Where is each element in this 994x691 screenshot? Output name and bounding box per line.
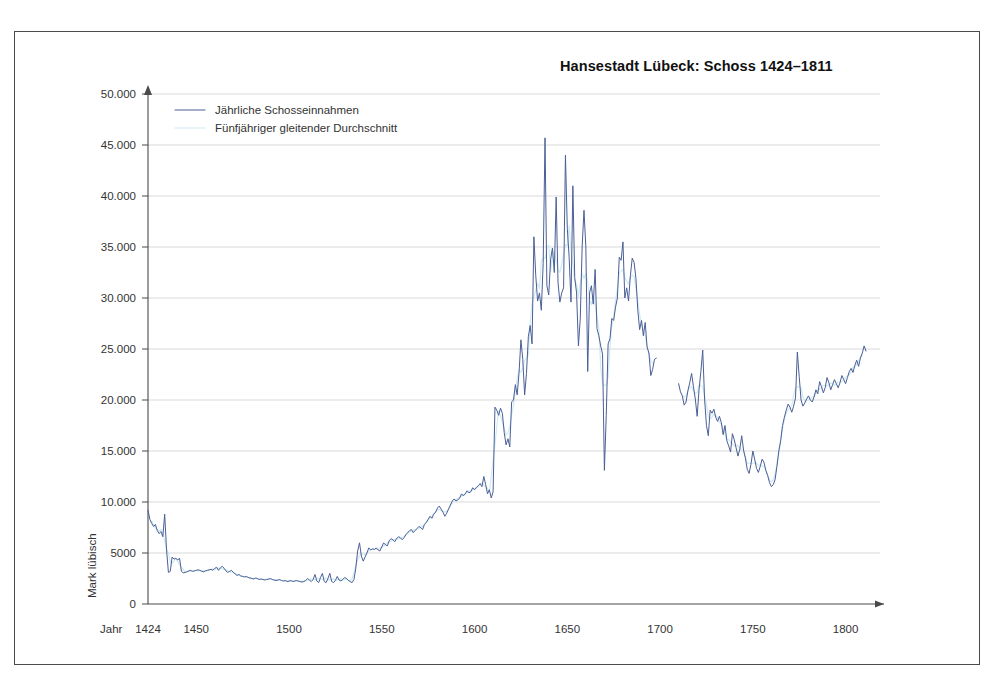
chart-svg: 0500010.00015.00020.00025.00030.00035.00… [0, 0, 994, 691]
y-tick-label: 15.000 [101, 445, 136, 457]
x-tick-label: 1500 [276, 623, 302, 635]
y-tick-label: 5000 [110, 547, 136, 559]
legend-label-annual: Jährliche Schosseinnahmen [215, 104, 359, 116]
legend-label-moving-average: Fünfjähriger gleitender Durchschnitt [215, 122, 398, 134]
x-axis-name: Jahr [100, 623, 123, 635]
x-tick-label: 1700 [647, 623, 673, 635]
x-tick-labels-group: 142414501500155016001650170017501800 [135, 623, 858, 635]
series-line-moving-average [152, 226, 863, 582]
y-tick-label: 40.000 [101, 190, 136, 202]
legend: Jährliche Schosseinnahmen Fünfjähriger g… [175, 104, 398, 134]
series-line-annual [148, 138, 866, 583]
y-tick-label: 45.000 [101, 139, 136, 151]
y-axis-arrow [144, 85, 152, 95]
y-axis-name: Mark lübisch [86, 533, 98, 598]
y-tick-labels-group: 0500010.00015.00020.00025.00030.00035.00… [101, 88, 136, 610]
y-tick-label: 20.000 [101, 394, 136, 406]
x-tick-label: 1600 [462, 623, 488, 635]
y-tick-label: 25.000 [101, 343, 136, 355]
x-tick-label: 1550 [369, 623, 395, 635]
x-axis-arrow [875, 601, 884, 608]
x-tick-label: 1750 [740, 623, 766, 635]
x-tick-label: 1650 [555, 623, 581, 635]
chart-page: Hansestadt Lübeck: Schoss 1424–1811 0500… [0, 0, 994, 691]
x-tick-label: 1424 [135, 623, 161, 635]
y-tick-label: 50.000 [101, 88, 136, 100]
chart-plot-area: 0500010.00015.00020.00025.00030.00035.00… [0, 0, 994, 691]
x-tick-label: 1800 [833, 623, 859, 635]
x-tick-label: 1450 [183, 623, 209, 635]
y-tick-label: 10.000 [101, 496, 136, 508]
y-tick-label: 0 [130, 598, 136, 610]
y-tick-label: 35.000 [101, 241, 136, 253]
y-ticks-group [142, 94, 148, 604]
y-tick-label: 30.000 [101, 292, 136, 304]
